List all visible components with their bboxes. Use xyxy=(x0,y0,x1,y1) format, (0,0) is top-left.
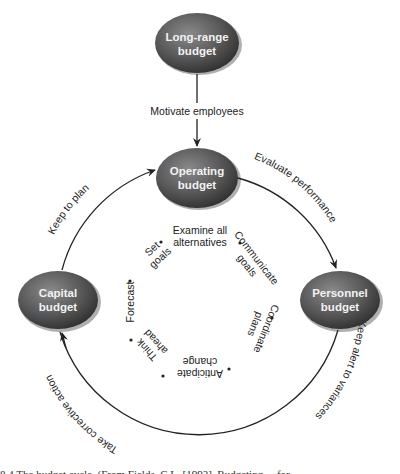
inner-item-coordinate-plans: Coordinate plans xyxy=(240,298,282,355)
svg-text:Personnel: Personnel xyxy=(312,287,368,299)
svg-text:Capital: Capital xyxy=(39,287,77,299)
svg-text:budget: budget xyxy=(39,301,77,313)
arc-capital-to-operating xyxy=(62,170,155,270)
svg-text:budget: budget xyxy=(178,179,216,191)
budget-cycle-diagram: Motivate employees Evaluate performance … xyxy=(0,0,400,474)
node-personnel-budget: Personnel budget xyxy=(300,271,383,332)
svg-text:Long-range: Long-range xyxy=(165,31,228,43)
inner-item-think-ahead: Think ahead xyxy=(132,327,169,365)
inner-item-examine-alternatives: Examine all alternatives xyxy=(173,224,227,248)
flow-label-evaluate: Evaluate performance xyxy=(253,149,340,224)
inner-item-communicate-goals: Communicate goals xyxy=(223,228,282,294)
svg-text:Anticipate: Anticipate xyxy=(177,368,223,380)
inner-item-anticipate-change: Anticipate change xyxy=(177,356,223,380)
figure-caption: 8.4 The budget cycle. (From Fields, C.L.… xyxy=(0,466,400,474)
inner-item-forecast: Forecast xyxy=(124,282,136,323)
node-long-range-budget: Long-range budget xyxy=(155,13,242,75)
node-operating-budget: Operating budget xyxy=(156,148,241,210)
node-capital-budget: Capital budget xyxy=(18,271,101,332)
svg-text:Examine all: Examine all xyxy=(173,224,227,236)
svg-text:budget: budget xyxy=(178,45,216,57)
flow-label-keep-to-plan: Keep to plan xyxy=(45,181,91,236)
svg-text:change: change xyxy=(183,356,218,368)
flow-label-keep-alert: Keep alert to variances xyxy=(313,320,369,423)
flow-label-motivate: Motivate employees xyxy=(150,105,243,117)
inner-activity-cycle: Examine all alternatives Communicate goa… xyxy=(124,224,282,380)
svg-text:Forecast: Forecast xyxy=(124,282,136,323)
flow-label-corrective-action: Take corrective action xyxy=(42,373,119,457)
arc-personnel-to-capital xyxy=(60,330,338,435)
svg-text:alternatives: alternatives xyxy=(173,236,227,248)
svg-text:Operating: Operating xyxy=(170,165,224,177)
inner-item-set-goals: Set goals xyxy=(138,236,173,271)
svg-text:budget: budget xyxy=(321,301,359,313)
